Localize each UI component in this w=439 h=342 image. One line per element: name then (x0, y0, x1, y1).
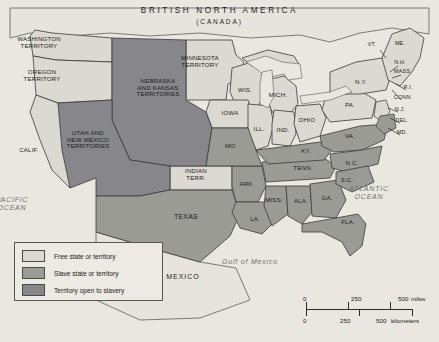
legend-swatch-free (22, 250, 45, 262)
scale-tick-end (412, 309, 413, 316)
historical-map: BRITISH NORTH AMERICA (CANADA) WASHINGTO… (0, 0, 439, 342)
region-iowa (206, 100, 252, 128)
map-subtitle: (CANADA) (0, 18, 439, 25)
scale-miles-250: 250 (351, 295, 361, 302)
scale-tick-km-0 (306, 302, 307, 309)
region-indian-territory (170, 166, 232, 190)
map-title: BRITISH NORTH AMERICA (0, 6, 439, 15)
scale-tick-mid (359, 309, 360, 316)
scale-tick-km-end (390, 302, 391, 309)
scale-km-unit: kilometers (391, 317, 419, 324)
legend-label-free: Free state or territory (54, 253, 116, 260)
legend-label-open: Territory open to slavery (54, 287, 124, 294)
scale-km-500: 500 (376, 317, 386, 324)
scale-miles-unit: miles (411, 295, 425, 302)
region-oregon-territory (33, 56, 112, 103)
scale-miles-500: 500 (398, 295, 408, 302)
legend-item-free: Free state or territory (22, 248, 162, 264)
region-arkansas (232, 166, 266, 202)
scale-km-0: 0 (303, 317, 306, 324)
scale-bar: 0 250 500 miles 0 250 500 kilometers (299, 297, 427, 333)
region-indiana (272, 110, 296, 146)
scale-km-250: 250 (340, 317, 350, 324)
scale-tick-km-mid (348, 302, 349, 309)
legend-item-open: Territory open to slavery (22, 282, 162, 298)
scale-miles-0: 0 (303, 295, 306, 302)
legend-swatch-slave (22, 267, 45, 279)
map-legend: Free state or territorySlave state or te… (14, 242, 163, 301)
legend-item-slave: Slave state or territory (22, 265, 162, 281)
legend-swatch-open (22, 284, 45, 296)
scale-tick-0 (306, 309, 307, 316)
legend-label-slave: Slave state or territory (54, 270, 119, 277)
